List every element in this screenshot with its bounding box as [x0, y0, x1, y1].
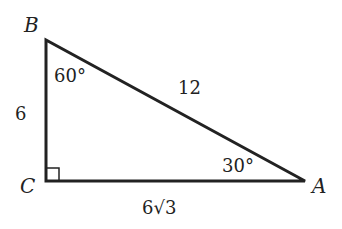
side-label-bc: 6: [15, 103, 26, 124]
vertex-label-a: A: [310, 174, 326, 198]
right-angle-marker: [46, 168, 59, 181]
side-label-ca: 6√3: [142, 197, 176, 218]
side-label-ab: 12: [178, 77, 201, 98]
triangle-diagram: B C A 60° 30° 6 12 6√3: [0, 0, 342, 229]
angle-label-b: 60°: [54, 65, 86, 86]
angle-label-a: 30°: [222, 155, 254, 176]
triangle-abc: [46, 40, 305, 181]
vertex-label-b: B: [23, 13, 39, 37]
vertex-label-c: C: [20, 174, 35, 198]
